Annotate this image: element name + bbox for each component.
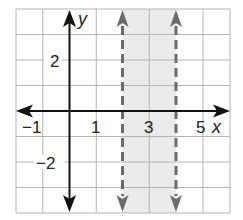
x-tick-label: 1 xyxy=(91,118,100,137)
x-axis-label: x xyxy=(211,117,222,137)
x-tick-label: −1 xyxy=(22,118,41,137)
x-tick-label: 3 xyxy=(144,118,153,137)
x-tick-label: 5 xyxy=(196,118,205,137)
coordinate-graph: −1 1 3 5 x 2 −2 y xyxy=(0,0,243,220)
y-axis-label: y xyxy=(76,9,88,29)
y-tick-label: −2 xyxy=(36,154,55,173)
y-tick-label: 2 xyxy=(50,52,59,71)
